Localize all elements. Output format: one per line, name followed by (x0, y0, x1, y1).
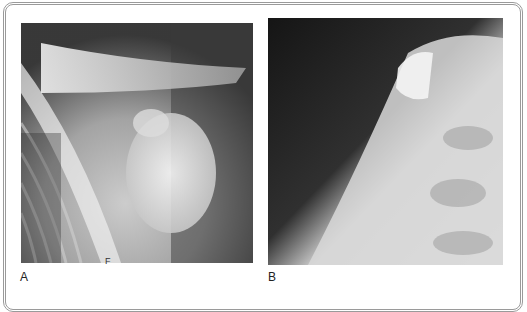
xray-image-b (268, 18, 503, 265)
marker-f: F (105, 256, 111, 266)
panel-label-a: A (20, 270, 28, 284)
xray-image-a (21, 23, 253, 263)
xray-panel-a (21, 23, 253, 263)
panel-label-b: B (268, 270, 276, 284)
xray-panel-b (268, 18, 503, 265)
